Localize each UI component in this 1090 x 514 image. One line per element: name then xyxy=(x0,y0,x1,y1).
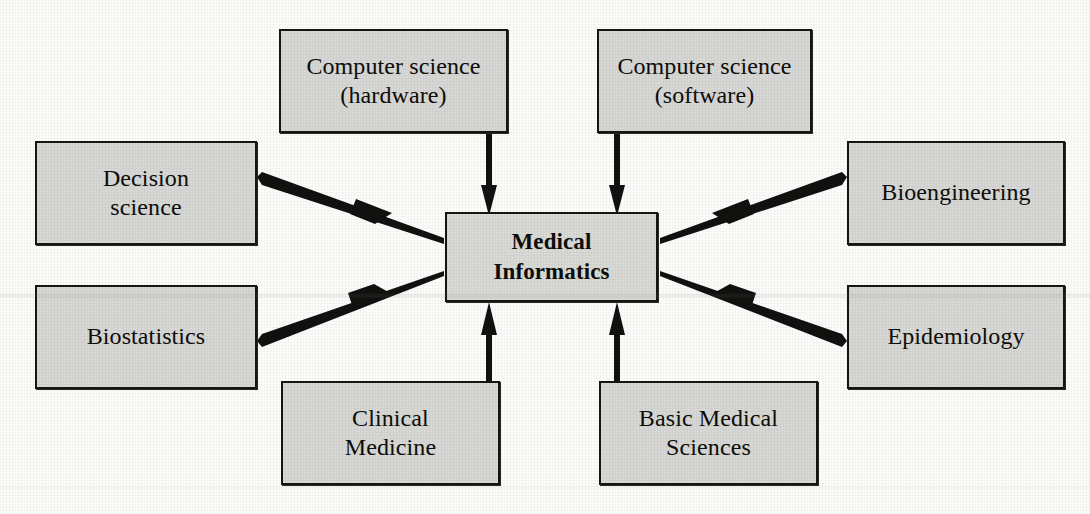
node-decision-science[interactable]: Decision science xyxy=(35,141,257,245)
arrow-clinical-medicine-to-center xyxy=(481,302,497,381)
node-label-medical-informatics: Medical Informatics xyxy=(493,227,609,287)
node-medical-informatics[interactable]: Medical Informatics xyxy=(445,212,658,302)
node-epidemiology[interactable]: Epidemiology xyxy=(847,285,1065,389)
arrow-epidemiology-to-center xyxy=(660,271,847,347)
node-label-epidemiology: Epidemiology xyxy=(887,322,1024,351)
node-basic-medical-sciences[interactable]: Basic Medical Sciences xyxy=(599,381,818,485)
node-label-basic-medical-sciences: Basic Medical Sciences xyxy=(639,404,778,463)
node-label-decision-science: Decision science xyxy=(103,164,189,223)
arrow-biostatistics-to-center xyxy=(257,271,444,347)
arrow-decision-science-to-center xyxy=(257,172,444,244)
node-label-bioengineering: Bioengineering xyxy=(881,178,1030,207)
node-computer-science-software[interactable]: Computer science (software) xyxy=(597,29,812,133)
node-computer-science-hardware[interactable]: Computer science (hardware) xyxy=(279,29,508,133)
node-bioengineering[interactable]: Bioengineering xyxy=(847,141,1065,245)
arrow-cs-hardware-to-center xyxy=(481,133,497,216)
node-label-computer-science-hardware: Computer science (hardware) xyxy=(306,52,480,111)
arrow-basic-medical-sciences-to-center xyxy=(609,302,625,381)
diagram-canvas: Medical Informatics Computer science (ha… xyxy=(0,0,1090,514)
node-label-biostatistics: Biostatistics xyxy=(87,322,206,351)
arrow-bioengineering-to-center xyxy=(660,172,847,244)
arrow-cs-software-to-center xyxy=(609,133,625,216)
node-label-clinical-medicine: Clinical Medicine xyxy=(345,404,436,463)
node-biostatistics[interactable]: Biostatistics xyxy=(35,285,257,389)
node-clinical-medicine[interactable]: Clinical Medicine xyxy=(281,381,500,485)
node-label-computer-science-software: Computer science (software) xyxy=(617,52,791,111)
